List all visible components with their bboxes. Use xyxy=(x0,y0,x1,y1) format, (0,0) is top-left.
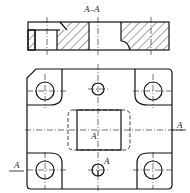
section-view xyxy=(28,22,169,50)
plan-view xyxy=(27,69,172,189)
section-marker-left: A xyxy=(13,160,20,170)
section-marker-right: A xyxy=(176,120,183,130)
center-label: A xyxy=(90,131,97,141)
section-title: A–A xyxy=(83,4,100,14)
bottom-hole-label: A xyxy=(103,156,110,166)
engineering-drawing: A–A xyxy=(0,0,190,193)
